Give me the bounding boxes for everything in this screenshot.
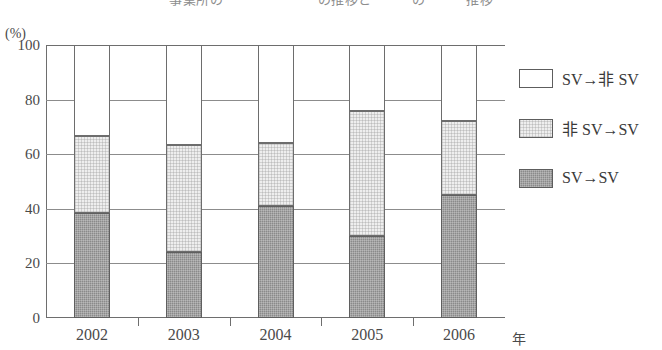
x-tick-label: 2003 [154,326,214,344]
legend-swatch-light-gray [519,119,553,138]
x-tick-label: 2002 [62,326,122,344]
legend-label-sv-to-sv: SV→SV [562,169,619,187]
plot-area [46,45,505,318]
legend-swatch-white [519,69,553,88]
y-axis-line [46,45,47,318]
y-tick-label: 0 [33,310,41,327]
bar-segment[interactable] [258,143,294,206]
bar-segment[interactable] [441,121,477,195]
legend-label-nonsv-to-sv: 非 SV→SV [562,116,639,140]
bar-segment[interactable] [74,213,110,318]
chart-title-text: 事業所の の推移と の 推移 [0,0,662,8]
bar-segment[interactable] [258,206,294,318]
legend-swatch-dark-gray [519,169,553,188]
legend-item-nonsv-to-sv[interactable]: 非 SV→SV [519,116,659,140]
x-tick [413,318,414,326]
bar-group[interactable] [166,45,202,318]
bar-segment[interactable] [166,145,202,253]
chart-legend: SV→非 SV 非 SV→SV SV→SV [519,66,659,216]
bar-segment[interactable] [441,45,477,121]
y-tick-label: 100 [18,37,41,54]
bar-segment[interactable] [349,45,385,111]
bar-group[interactable] [258,45,294,318]
x-tick [230,318,231,326]
bar-group[interactable] [74,45,110,318]
legend-item-sv-to-sv[interactable]: SV→SV [519,166,659,190]
legend-item-sv-to-nonsv[interactable]: SV→非 SV [519,66,659,90]
y-tick-label: 60 [25,146,40,163]
bar-segment[interactable] [349,111,385,237]
bar-segment[interactable] [441,195,477,318]
bar-group[interactable] [349,45,385,318]
bar-group[interactable] [441,45,477,318]
y-axis-tick-labels: 020406080100 [0,45,42,318]
bar-segment[interactable] [258,45,294,143]
x-tick [138,318,139,326]
x-tick-label: 2005 [337,326,397,344]
x-tick-label: 2006 [429,326,489,344]
y-tick-label: 80 [25,91,40,108]
x-axis-unit-label: 年 [512,328,526,348]
y-tick-label: 20 [25,255,40,272]
bar-segment[interactable] [166,252,202,318]
bar-segment[interactable] [166,45,202,145]
bar-segment[interactable] [74,136,110,212]
x-tick-label: 2004 [246,326,306,344]
chart-container: 事業所の の推移と の 推移 (%) 020406080100 20022003… [0,0,662,350]
x-tick [321,318,322,326]
legend-label-sv-to-nonsv: SV→非 SV [562,66,639,90]
chart-title-clipped: 事業所の の推移と の 推移 [0,0,662,9]
y-tick-label: 40 [25,200,40,217]
bar-segment[interactable] [74,45,110,136]
bar-segment[interactable] [349,236,385,318]
